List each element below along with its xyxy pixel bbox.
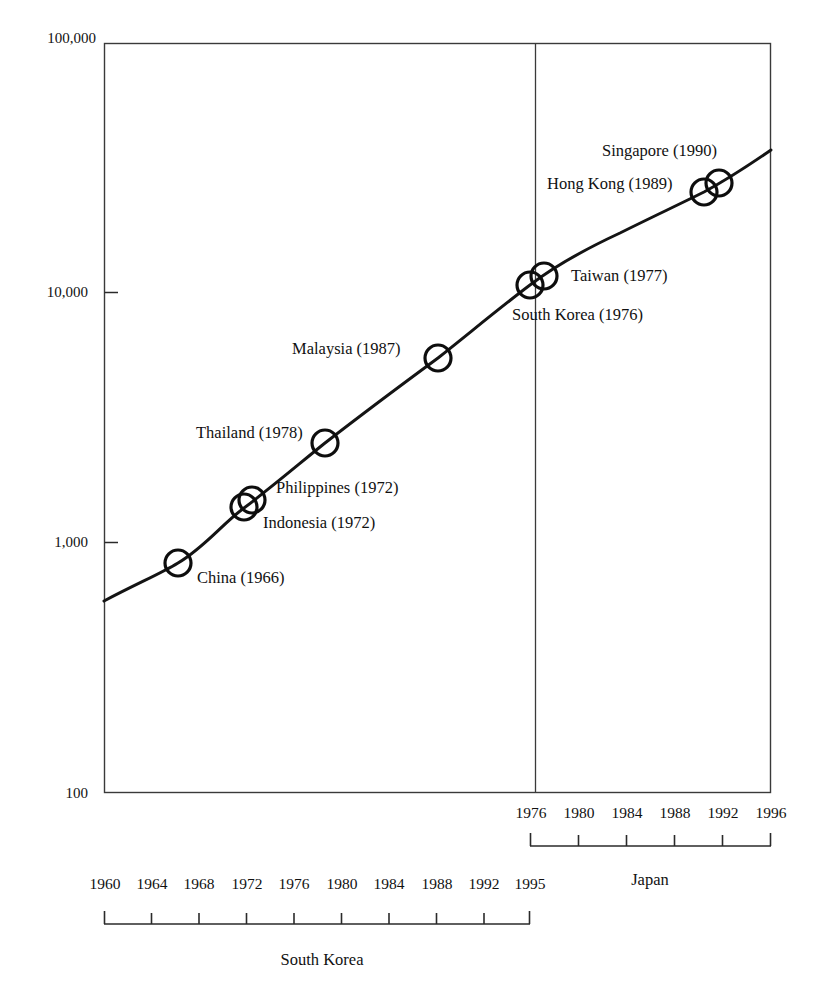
point-philippines[interactable] — [239, 487, 265, 513]
point-label-indonesia: Indonesia (1972) — [263, 515, 375, 532]
data-point-markers — [165, 170, 732, 576]
japan-tick-label-1996: 1996 — [739, 805, 803, 821]
point-label-philippines: Philippines (1972) — [276, 480, 398, 497]
figure-container: 100,000 10,000 1,000 100 Singapore (1990… — [0, 0, 816, 989]
point-label-singapore: Singapore (1990) — [602, 143, 717, 160]
point-label-hong-kong: Hong Kong (1989) — [547, 176, 673, 193]
japan-axis-caption: Japan — [590, 872, 710, 889]
point-label-taiwan: Taiwan (1977) — [571, 268, 667, 285]
point-label-china: China (1966) — [197, 570, 285, 587]
south-korea-axis-caption: South Korea — [257, 952, 387, 969]
ytick-label-1000: 1,000 — [0, 535, 88, 550]
south-korea-axis-ruler — [104, 911, 530, 924]
point-label-thailand: Thailand (1978) — [196, 425, 303, 442]
trend-curve — [104, 150, 771, 601]
ytick-label-100: 100 — [0, 786, 88, 801]
point-label-south-korea: South Korea (1976) — [512, 307, 643, 324]
ytick-label-100000: 100,000 — [0, 31, 96, 46]
point-label-malaysia: Malaysia (1987) — [292, 341, 401, 358]
japan-axis-ruler — [530, 833, 771, 846]
ytick-label-10000: 10,000 — [0, 285, 88, 300]
sk-tick-label-1995: 1995 — [498, 876, 562, 892]
